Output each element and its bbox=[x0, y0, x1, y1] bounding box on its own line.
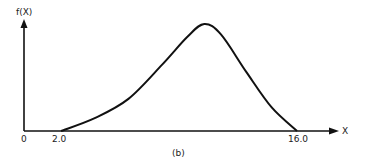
chart: f(X) X 0 2.0 16.0 (b) bbox=[0, 0, 367, 168]
y-axis-arrow-icon bbox=[21, 19, 28, 28]
x-axis-arrow-icon bbox=[329, 128, 339, 135]
figure-caption: (b) bbox=[172, 148, 185, 158]
y-axis-label: f(X) bbox=[16, 7, 32, 17]
origin-label: 0 bbox=[21, 134, 27, 144]
density-curve bbox=[61, 24, 297, 131]
x-axis-label: X bbox=[342, 126, 348, 136]
tick-label-end: 16.0 bbox=[288, 134, 308, 144]
tick-label-start: 2.0 bbox=[52, 134, 66, 144]
